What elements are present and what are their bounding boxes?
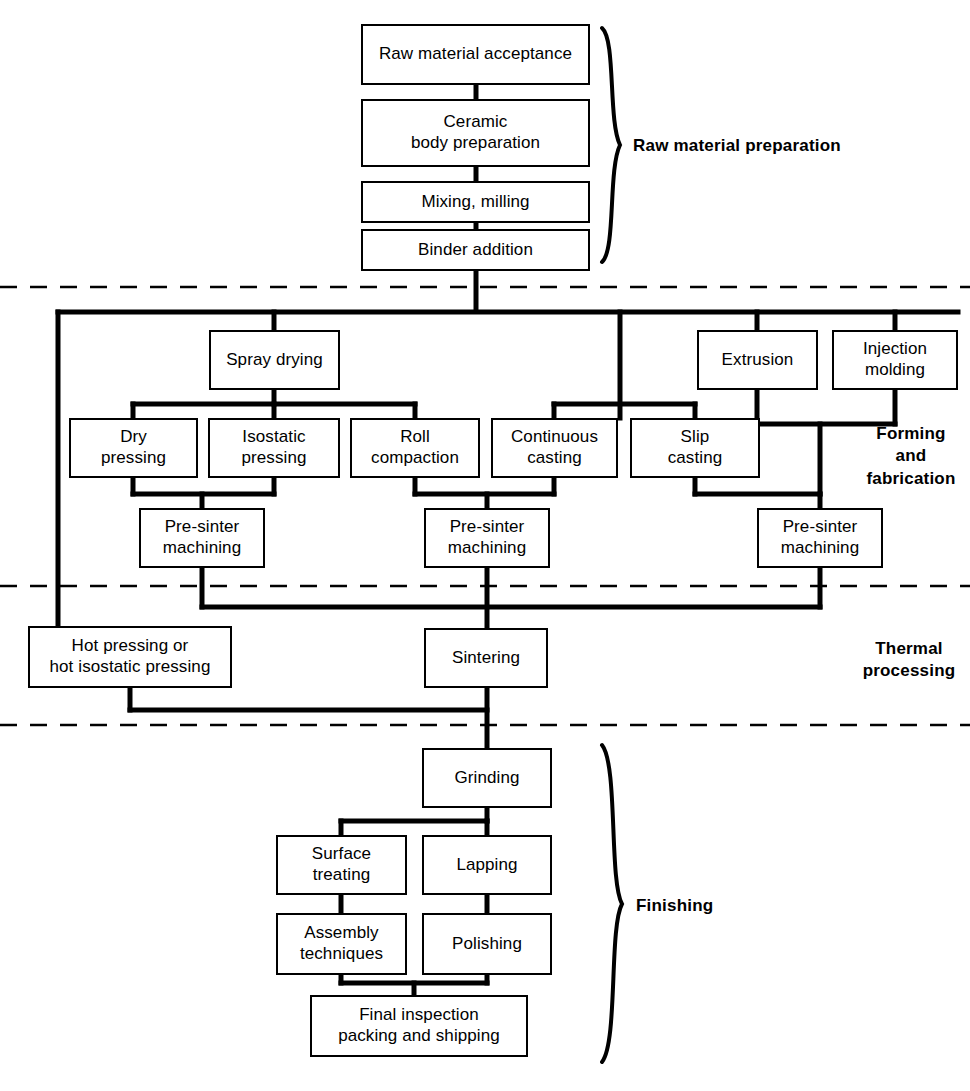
section-label-thermal-processing: Thermal processing: [853, 638, 965, 683]
node-roll-compaction[interactable]: Roll compaction: [350, 418, 480, 478]
section-label-finishing: Finishing: [636, 895, 836, 917]
brace-finishing: [602, 745, 622, 1062]
braces: [602, 28, 622, 1062]
node-label-line2: machining: [444, 538, 530, 559]
node-label-line2: casting: [507, 448, 602, 469]
node-polishing[interactable]: Polishing: [422, 913, 552, 975]
section-label-line1: Thermal: [853, 638, 965, 660]
node-label-line2: molding: [859, 360, 931, 381]
presinter-collection-bus: [202, 568, 820, 628]
node-label-line1: Pre-sinter: [444, 517, 530, 538]
node-pre-sinter-machining-3[interactable]: Pre-sinter machining: [757, 508, 883, 568]
node-surface-treating[interactable]: Surface treating: [276, 835, 407, 895]
node-injection-molding[interactable]: Injection molding: [832, 330, 958, 390]
node-label-line1: Slip: [664, 427, 727, 448]
node-label-line1: Dry: [97, 427, 170, 448]
node-label-line2: techniques: [296, 944, 387, 965]
node-sintering[interactable]: Sintering: [424, 628, 548, 688]
section-label-line2: processing: [853, 660, 965, 682]
spray-drying-fanout: [133, 390, 415, 418]
node-label-line1: Continuous: [507, 427, 602, 448]
hot-pressing-merge: [130, 688, 487, 710]
final-merge: [341, 975, 487, 995]
node-pre-sinter-machining-2[interactable]: Pre-sinter machining: [424, 508, 550, 568]
section-label-line2: and: [855, 445, 967, 467]
node-label: Mixing, milling: [417, 192, 533, 213]
node-isostatic-pressing[interactable]: Isostatic pressing: [208, 418, 340, 478]
section-label-text: Finishing: [636, 896, 713, 915]
slip-casting-to-presinter3: [695, 478, 820, 508]
node-lapping[interactable]: Lapping: [422, 835, 552, 895]
node-label: Raw material acceptance: [375, 44, 576, 65]
node-pre-sinter-machining-1[interactable]: Pre-sinter machining: [139, 508, 265, 568]
section-label-line1: Forming: [855, 423, 967, 445]
node-hot-pressing[interactable]: Hot pressing or hot isostatic pressing: [28, 626, 232, 688]
node-continuous-casting[interactable]: Continuous casting: [491, 418, 618, 478]
node-label-line2: pressing: [237, 448, 310, 469]
section-label-text: Raw material preparation: [633, 136, 841, 155]
node-label-line1: Pre-sinter: [159, 517, 245, 538]
node-label: Lapping: [452, 855, 521, 876]
node-label-line1: Ceramic: [407, 112, 544, 133]
casting-fanout: [554, 404, 695, 418]
node-label: Sintering: [448, 648, 524, 669]
node-label-line1: Isostatic: [237, 427, 310, 448]
node-label-line1: Final inspection: [334, 1005, 504, 1026]
node-binder-addition[interactable]: Binder addition: [361, 229, 590, 271]
roll-casting-to-presinter2: [415, 478, 554, 508]
node-spray-drying[interactable]: Spray drying: [209, 330, 340, 390]
node-label: Polishing: [448, 934, 526, 955]
node-extrusion[interactable]: Extrusion: [697, 330, 818, 390]
node-assembly-techniques[interactable]: Assembly techniques: [276, 913, 407, 975]
node-label-line1: Injection: [859, 339, 931, 360]
node-label-line2: hot isostatic pressing: [46, 657, 215, 678]
node-label-line2: pressing: [97, 448, 170, 469]
node-label-line2: casting: [664, 448, 727, 469]
grinding-fanout: [341, 808, 487, 835]
node-label-line2: treating: [308, 865, 375, 886]
brace-raw-material-preparation: [602, 28, 620, 262]
node-dry-pressing[interactable]: Dry pressing: [69, 418, 198, 478]
node-label-line2: machining: [777, 538, 863, 559]
flowchart-canvas: Raw material acceptance Ceramic body pre…: [0, 0, 970, 1091]
node-label: Grinding: [450, 768, 523, 789]
node-label-line2: machining: [159, 538, 245, 559]
section-label-raw-material-preparation: Raw material preparation: [633, 135, 933, 157]
node-label: Extrusion: [718, 350, 798, 371]
node-label: Spray drying: [222, 350, 327, 371]
node-raw-material-acceptance[interactable]: Raw material acceptance: [361, 24, 590, 85]
node-grinding[interactable]: Grinding: [422, 748, 552, 808]
node-label-line2: body preparation: [407, 133, 544, 154]
node-final-inspection[interactable]: Final inspection packing and shipping: [310, 995, 528, 1057]
node-ceramic-body-preparation[interactable]: Ceramic body preparation: [361, 99, 590, 167]
section-label-line3: fabrication: [855, 468, 967, 490]
section-label-forming-and-fabrication: Forming and fabrication: [855, 423, 967, 490]
node-slip-casting[interactable]: Slip casting: [630, 418, 760, 478]
pressing-to-presinter1: [133, 478, 274, 508]
node-label-line1: Pre-sinter: [777, 517, 863, 538]
node-label-line1: Roll: [367, 427, 463, 448]
node-label: Binder addition: [414, 240, 537, 261]
node-label-line2: compaction: [367, 448, 463, 469]
node-label-line1: Surface: [308, 844, 375, 865]
node-label-line2: packing and shipping: [334, 1026, 504, 1047]
node-label-line1: Assembly: [296, 923, 387, 944]
node-label-line1: Hot pressing or: [46, 636, 215, 657]
node-mixing-milling[interactable]: Mixing, milling: [361, 181, 590, 223]
